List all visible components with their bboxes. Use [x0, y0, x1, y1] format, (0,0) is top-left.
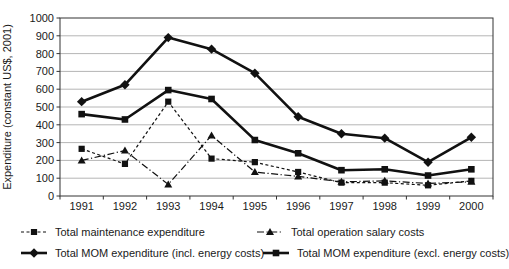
x-tick-label: 1995	[243, 200, 267, 212]
legend-label-mom-excl-energy: Total MOM expenditure (excl. energy cost…	[297, 247, 509, 259]
square-marker-series-3	[122, 116, 129, 123]
y-tick-label: 500	[36, 101, 54, 113]
x-tick-label: 1994	[199, 200, 223, 212]
square-marker-series-3	[381, 166, 388, 173]
legend-item-mom-incl-energy: Total MOM expenditure (incl. energy cost…	[20, 247, 264, 259]
square-marker-series-0	[79, 146, 85, 152]
y-tick-label: 400	[36, 119, 54, 131]
x-tick-label: 2000	[459, 200, 483, 212]
y-tick-label: 600	[36, 83, 54, 95]
square-marker-series-3	[165, 87, 172, 94]
legend-label-salary: Total operation salary costs	[291, 226, 424, 238]
legend-sample-mom-incl-energy	[20, 247, 48, 259]
x-tick-label: 1993	[156, 200, 180, 212]
y-tick-label: 200	[36, 154, 54, 166]
diamond-marker-series-2	[337, 129, 346, 138]
square-marker-series-3	[208, 96, 215, 103]
series-line-3	[82, 90, 472, 175]
y-axis-title: Expenditure (constant US$, 2001)	[1, 24, 13, 190]
legend-item-mom-excl-energy: Total MOM expenditure (excl. energy cost…	[262, 247, 509, 259]
y-tick-label: 700	[36, 65, 54, 77]
series-line-2	[82, 38, 472, 163]
legend-sample-maintenance	[20, 226, 48, 238]
legend-item-salary: Total operation salary costs	[256, 226, 424, 238]
y-tick-label: 800	[36, 48, 54, 60]
x-tick-label: 1998	[373, 200, 397, 212]
legend-sample-diamond-marker	[29, 248, 38, 257]
legend-sample-salary	[256, 226, 284, 238]
square-marker-series-3	[468, 166, 475, 173]
square-marker-series-3	[425, 172, 432, 179]
square-marker-series-3	[78, 111, 85, 118]
legend-sample-mom-excl-energy	[262, 247, 290, 259]
x-tick-label: 1997	[329, 200, 353, 212]
x-tick-label: 1992	[113, 200, 137, 212]
diamond-marker-series-2	[77, 97, 86, 106]
expenditure-line-chart: 0100200300400500600700800900100019911992…	[0, 0, 509, 269]
square-marker-series-0	[165, 99, 171, 105]
y-tick-label: 1000	[30, 12, 54, 24]
legend-label-maintenance: Total maintenance expenditure	[55, 226, 205, 238]
chart-plot-area: 0100200300400500600700800900100019911992…	[0, 0, 509, 222]
square-marker-series-0	[252, 159, 258, 165]
y-tick-label: 900	[36, 30, 54, 42]
x-tick-label: 1991	[69, 200, 93, 212]
y-tick-label: 300	[36, 137, 54, 149]
y-tick-label: 0	[48, 190, 54, 202]
triangle-marker-series-1	[121, 147, 129, 154]
legend-item-maintenance: Total maintenance expenditure	[20, 226, 205, 238]
x-tick-label: 1996	[286, 200, 310, 212]
y-tick-label: 100	[36, 172, 54, 184]
triangle-marker-series-1	[208, 131, 216, 138]
legend-label-mom-incl-energy: Total MOM expenditure (incl. energy cost…	[55, 247, 264, 259]
legend-sample-square-marker	[31, 229, 37, 235]
square-marker-series-0	[208, 156, 214, 162]
square-marker-series-3	[252, 137, 259, 144]
square-marker-series-0	[122, 161, 128, 167]
legend-sample-square-marker	[273, 250, 280, 257]
x-tick-label: 1999	[416, 200, 440, 212]
square-marker-series-3	[295, 150, 302, 157]
square-marker-series-3	[338, 167, 345, 174]
